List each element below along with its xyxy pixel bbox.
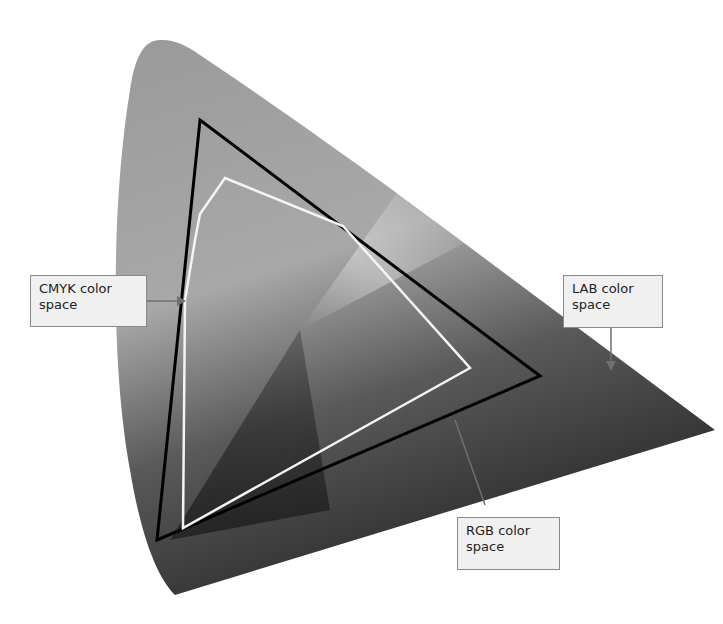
color-space-diagram: CMYK color space LAB color space RGB col…	[0, 0, 723, 624]
rgb-label: RGB color space	[457, 517, 560, 570]
cmyk-label: CMYK color space	[30, 275, 147, 327]
rgb-label-line1: RGB color	[466, 523, 551, 539]
rgb-label-line2: space	[466, 539, 551, 555]
lab-label: LAB color space	[563, 275, 663, 328]
cmyk-label-line1: CMYK color	[39, 281, 138, 297]
cmyk-label-line2: space	[39, 297, 138, 313]
lab-label-line1: LAB color	[572, 281, 654, 297]
lab-label-line2: space	[572, 297, 654, 313]
